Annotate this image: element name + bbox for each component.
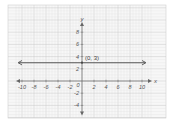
point-marker [81,62,83,64]
y-tick-label: 2 [75,66,79,72]
x-tick-label: 10 [139,84,146,90]
x-tick-label: -10 [18,84,27,90]
plot-background [8,5,166,118]
y-tick-label: -2 [74,90,79,96]
coordinate-plane: xy-10-8-6-4-20246810-4-22468(0, 3) [0,0,178,123]
x-tick-label: 4 [104,84,107,90]
x-tick-label: 2 [91,84,95,90]
y-tick-label: -4 [74,102,79,108]
x-tick-label: -4 [56,84,61,90]
point-label: (0, 3) [85,55,99,61]
y-tick-label: 4 [76,54,79,60]
x-tick-label: -2 [68,84,73,90]
